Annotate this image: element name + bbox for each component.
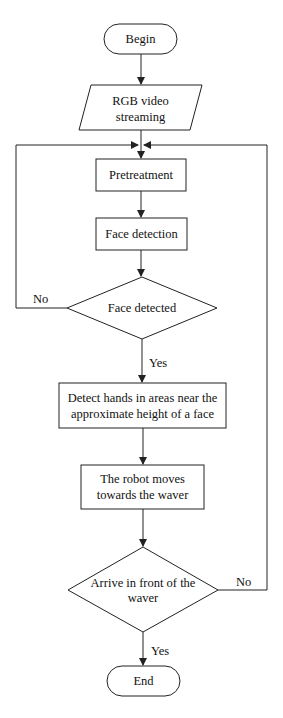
arrive-label-line2: waver [68, 591, 218, 605]
end-label: End [107, 674, 180, 688]
face-detection-label: Face detection [96, 227, 187, 241]
detect-hands-label-line1: Detect hands in areas near the [59, 391, 226, 405]
begin-label: Begin [104, 32, 177, 46]
pretreatment-label: Pretreatment [96, 168, 186, 182]
face-detected-label: Face detected [67, 301, 217, 315]
robot-moves-label-line2: towards the waver [81, 488, 204, 502]
detect-hands-box [59, 383, 226, 428]
robot-moves-label-line1: The robot moves [81, 472, 204, 486]
arrive-label-line1: Arrive in front of the [68, 576, 218, 590]
face-yes-label: Yes [149, 356, 167, 370]
arrive-yes-label: Yes [151, 644, 169, 658]
arrive-no-label: No [236, 575, 251, 589]
detect-hands-label-line2: approximate height of a face [59, 407, 226, 421]
face-no-label: No [33, 292, 48, 306]
input-label-line1: RGB video [79, 94, 202, 108]
input-label-line2: streaming [79, 110, 202, 124]
